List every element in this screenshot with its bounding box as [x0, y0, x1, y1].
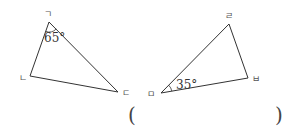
vertex-label-nieun: ㄴ [19, 73, 27, 83]
triangle-left: ㄱ ㄴ ㄷ 65° [19, 9, 130, 98]
vertex-label-bieup: ㅂ [252, 74, 260, 84]
vertex-label-digeut: ㄷ [122, 88, 130, 98]
answer-open-paren: ( [128, 103, 136, 127]
vertex-label-giyeok: ㄱ [44, 9, 52, 19]
vertex-label-rieul: ㄹ [225, 11, 233, 21]
triangle-right: ㄹ ㅁ ㅂ 35° [147, 11, 260, 99]
answer-blank[interactable] [140, 106, 272, 126]
triangle-right-shape [161, 24, 248, 93]
angle-label-35: 35° [176, 78, 197, 92]
answer-close-paren: ) [275, 103, 283, 127]
vertex-label-mieum: ㅁ [147, 89, 155, 99]
angle-arc-mieum [169, 85, 172, 91]
angle-label-65: 65° [44, 31, 65, 45]
